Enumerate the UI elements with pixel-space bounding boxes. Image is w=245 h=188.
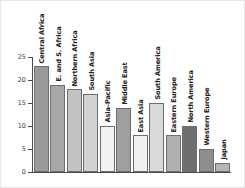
bar: South America [149, 103, 164, 172]
bar: Eastern Europe [166, 135, 181, 172]
bar: North America [182, 126, 197, 172]
bar-category-label: Eastern Europe [171, 77, 178, 133]
y-tick-mark [28, 172, 32, 173]
y-tick-mark [28, 80, 32, 81]
y-tick-label: 20 [18, 77, 26, 84]
bar: Western Europe [199, 149, 214, 172]
bar-category-label: North America [187, 71, 194, 123]
bar: South Asia [83, 94, 98, 172]
y-tick-mark [28, 149, 32, 150]
y-tick-label: 10 [18, 123, 26, 130]
bar: Asia–Pacific [100, 126, 115, 172]
bar: Northern Africa [67, 89, 82, 172]
bar-category-label: Northern Africa [72, 30, 79, 86]
bar: Middle East [116, 108, 131, 172]
bar: Central Africa [34, 66, 49, 172]
chart-figure: 0510152025 Central AfricaE. and S. Afric… [0, 0, 245, 188]
bar-category-label: East Asia [138, 99, 145, 132]
bar-series: Central AfricaE. and S. AfricaNorthern A… [33, 48, 231, 173]
bar: East Asia [133, 135, 148, 172]
bar: Japan [215, 163, 230, 172]
y-tick-mark [28, 57, 32, 58]
y-tick-mark [28, 126, 32, 127]
y-tick-mark [28, 103, 32, 104]
y-tick-label: 25 [18, 54, 26, 61]
bar-category-label: E. and S. Africa [55, 26, 62, 81]
bar: E. and S. Africa [50, 85, 65, 172]
bar-category-label: Japan [220, 140, 227, 160]
bar-category-label: Middle East [121, 62, 128, 104]
y-tick-label: 5 [22, 146, 26, 153]
bar-category-label: Western Europe [204, 88, 211, 146]
plot-area: 0510152025 Central AfricaE. and S. Afric… [32, 48, 236, 173]
bar-category-label: South America [154, 47, 161, 100]
bar-category-label: South Asia [88, 52, 95, 91]
y-tick-label: 0 [22, 169, 26, 176]
bar-category-label: Asia–Pacific [105, 81, 112, 123]
bar-category-label: Central Africa [39, 13, 46, 63]
y-tick-label: 15 [18, 100, 26, 107]
